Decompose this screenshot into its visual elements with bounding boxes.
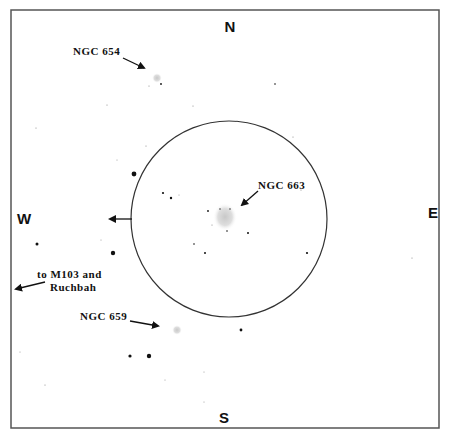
star	[274, 83, 276, 85]
star	[207, 210, 209, 212]
star	[128, 354, 131, 357]
star	[219, 208, 220, 209]
finder-chart: N S W E NGC 654 NGC 663 NGC 659 to M103 …	[0, 0, 452, 441]
north-label: N	[225, 18, 236, 35]
ngc654-arrow	[123, 58, 144, 68]
star	[170, 197, 172, 199]
west-label: W	[17, 210, 32, 227]
m103-label-line1: to M103 and	[37, 268, 102, 280]
star	[247, 232, 249, 234]
star	[106, 104, 107, 105]
star	[132, 172, 137, 177]
star	[229, 208, 230, 209]
star	[117, 160, 118, 161]
star	[111, 251, 115, 255]
star	[148, 85, 149, 86]
star	[306, 252, 308, 254]
m103-label-line2: Ruchbah	[50, 281, 96, 293]
star	[36, 243, 39, 246]
east-label: E	[428, 204, 438, 221]
star	[179, 195, 180, 196]
star	[162, 192, 164, 194]
ngc-659-cluster	[172, 325, 182, 335]
ngc659-label: NGC 659	[80, 310, 127, 322]
ngc663-label: NGC 663	[258, 179, 305, 191]
star	[211, 224, 212, 225]
deep-sky-objects	[152, 73, 237, 335]
star	[35, 127, 36, 128]
star	[147, 354, 151, 358]
star	[204, 372, 205, 373]
star	[237, 121, 238, 122]
star	[160, 83, 162, 85]
star	[240, 329, 243, 332]
star	[20, 352, 21, 353]
ngc654-label: NGC 654	[73, 45, 120, 57]
star	[145, 145, 146, 146]
ngc659-arrow	[130, 321, 158, 326]
star	[204, 252, 206, 254]
m103-arrow	[16, 282, 45, 289]
ngc663-arrow	[242, 191, 258, 205]
star	[204, 402, 205, 403]
star	[193, 243, 195, 245]
star	[226, 230, 228, 232]
ngc-663-cluster	[213, 203, 237, 231]
star	[292, 136, 293, 137]
star	[411, 257, 412, 258]
star	[44, 384, 45, 385]
ngc-654-cluster	[152, 73, 162, 83]
star	[165, 380, 166, 381]
south-label: S	[219, 409, 229, 426]
star	[192, 105, 193, 106]
stars	[20, 83, 413, 402]
star	[101, 240, 102, 241]
